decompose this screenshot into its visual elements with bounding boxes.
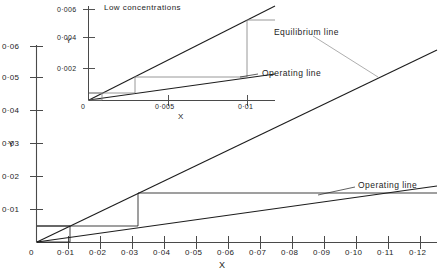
main-ytick-label-5: 0·05 (2, 73, 19, 82)
main-xtick-label-5: 0·05 (185, 248, 202, 257)
inset-xtick-label-1: 0·005 (155, 103, 174, 110)
main-xtick-label-6: 0·06 (217, 248, 234, 257)
main-xtick-label-10: 0·10 (345, 248, 362, 257)
main-ytick-label-6: 0·06 (2, 42, 19, 51)
main-xtick-label-7: 0·07 (249, 248, 266, 257)
main-xtick-label-11: 0·11 (377, 248, 394, 257)
main-xtick-label-9: 0·09 (313, 248, 330, 257)
equilibrium-line-annotation: Equilibrium line (274, 27, 339, 37)
inset-operating-line-annotation: Operating line (262, 68, 321, 78)
main-xtick-label-3: 0·03 (121, 248, 138, 257)
inset-stage-steps (89, 20, 275, 100)
main-operating-line-annotation: Operating line (358, 180, 417, 190)
main-y-axis-title: Y (8, 139, 15, 149)
inset-ytick-label-1: 0·002 (57, 65, 76, 72)
inset-ytick-label-3: 0·006 (57, 6, 76, 13)
inset-heading: Low concentrations (104, 3, 181, 12)
main-x-axis-title: X (219, 260, 226, 270)
main-ytick-label-4: 0·04 (2, 106, 19, 115)
main-xtick-label-1: 0·01 (57, 248, 74, 257)
inset-x-axis-title: X (178, 112, 184, 121)
main-ytick-label-1: 0·01 (2, 205, 19, 214)
main-xtick-label-2: 0·02 (89, 248, 106, 257)
main-xtick-label-4: 0·04 (153, 248, 170, 257)
inset-y-axis-title: Y (66, 36, 72, 45)
main-xtick-label-12: 0·12 (409, 248, 426, 257)
inset-xtick-label-2: 0·01 (238, 103, 253, 110)
main-ytick-label-2: 0·02 (2, 172, 19, 181)
inset-origin-label: 0 (81, 103, 85, 110)
main-origin-label: 0 (29, 248, 34, 257)
main-xtick-label-8: 0·08 (281, 248, 298, 257)
figure-canvas: 0·01 0·02 0·03 0·04 0·05 0·06 0 0·01 0·0… (0, 0, 440, 274)
